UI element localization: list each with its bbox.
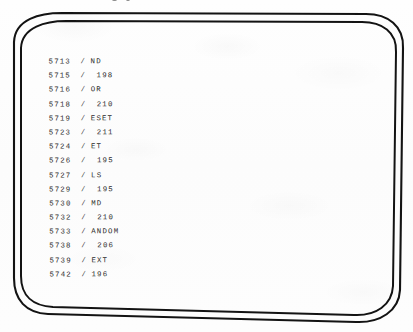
slash-token: /: [81, 69, 91, 83]
list-item: 5724 / ET: [49, 139, 279, 154]
slash-token: /: [81, 182, 91, 196]
list-item: 5733 / ANDOM: [49, 224, 279, 239]
list-item: 5729 / 195: [49, 181, 279, 196]
slash-token: /: [81, 225, 91, 239]
slash-token: /: [81, 168, 91, 182]
line-value: 195: [91, 154, 114, 168]
line-number: 5726: [49, 154, 81, 168]
slash-token: /: [81, 97, 91, 111]
line-number: 5727: [49, 168, 81, 182]
line-value: ESET: [91, 111, 113, 125]
slash-token: /: [81, 54, 91, 68]
line-value: 210: [91, 210, 114, 224]
list-item: 5739 / EXT: [49, 252, 279, 267]
list-item: 5718 / 210: [49, 96, 279, 111]
line-value: EXT: [91, 253, 108, 267]
list-item: 5742 / 196: [49, 266, 279, 281]
line-value: 196: [91, 267, 108, 281]
line-value: MD: [91, 196, 102, 210]
line-number: 5713: [49, 54, 81, 68]
line-value: 211: [91, 125, 114, 139]
slash-token: /: [81, 196, 91, 210]
list-item: 5716 / OR: [49, 82, 279, 97]
line-number: 5719: [49, 111, 81, 125]
terminal-listing: 5713 / ND 5715 / 198 5716 / OR 5718 / 21…: [49, 53, 280, 281]
list-item: 5727 / LS: [49, 167, 279, 182]
line-value: ND: [91, 54, 102, 68]
line-value: 206: [91, 239, 114, 253]
slash-token: /: [81, 210, 91, 224]
list-item: 5723 / 211: [49, 124, 279, 139]
slash-token: /: [81, 154, 91, 168]
slash-token: /: [81, 253, 91, 267]
line-number: 5724: [49, 139, 81, 153]
line-number: 5730: [49, 196, 81, 210]
line-value: ANDOM: [91, 224, 119, 238]
line-value: 210: [91, 97, 114, 111]
line-number: 5742: [49, 267, 81, 281]
list-item: 5719 / ESET: [49, 110, 279, 125]
line-number: 5718: [49, 97, 81, 111]
line-number: 5723: [49, 125, 81, 139]
slash-token: /: [81, 139, 91, 153]
line-number: 5732: [49, 210, 81, 224]
list-item: 5738 / 206: [49, 238, 279, 253]
line-value: 198: [91, 68, 114, 82]
list-item: 5715 / 198: [49, 68, 279, 83]
slash-token: /: [81, 267, 91, 281]
list-item: 5730 / MD: [49, 195, 279, 210]
slash-token: /: [81, 125, 91, 139]
list-item: 5726 / 195: [49, 153, 279, 168]
list-item: 5732 / 210: [49, 210, 279, 225]
line-value: 195: [91, 182, 114, 196]
line-value: LS: [91, 168, 102, 182]
slash-token: /: [81, 83, 91, 97]
line-number: 5733: [49, 225, 81, 239]
scanned-page: 5713 / ND 5715 / 198 5716 / OR 5718 / 21…: [0, 0, 413, 332]
line-value: ET: [91, 139, 102, 153]
line-number: 5739: [49, 253, 81, 267]
slash-token: /: [81, 239, 91, 253]
line-number: 5738: [49, 239, 81, 253]
line-number: 5715: [49, 69, 81, 83]
line-value: OR: [91, 83, 102, 97]
list-item: 5713 / ND: [49, 53, 279, 68]
slash-token: /: [81, 111, 91, 125]
line-number: 5729: [49, 182, 81, 196]
line-number: 5716: [49, 83, 81, 97]
